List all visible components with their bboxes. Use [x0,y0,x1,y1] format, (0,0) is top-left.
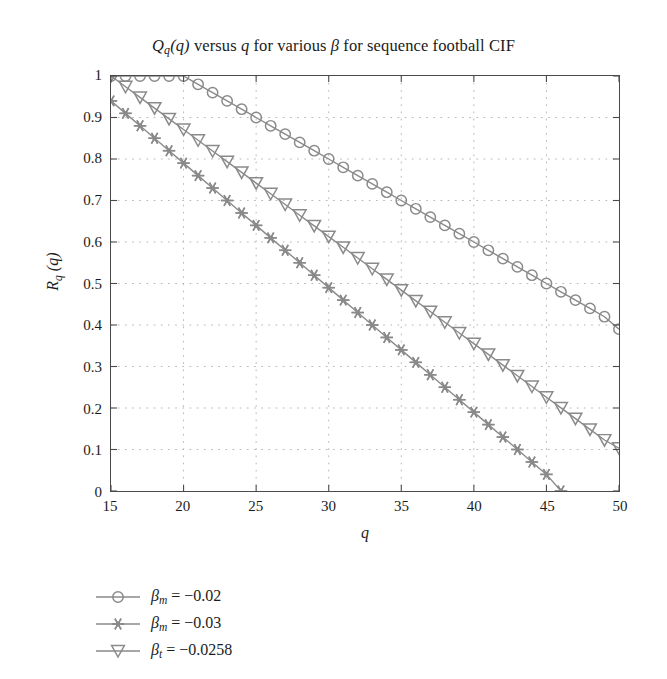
x-tick-label: 25 [226,498,286,515]
legend-marker-triangle-down-icon [95,640,141,662]
legend-item[interactable]: βt = −0.0258 [95,637,355,664]
title-versus: versus [190,36,241,55]
legend-value: −0.02 [184,587,221,604]
y-tick-label: 0.8 [50,150,102,167]
x-tick-label: 20 [153,498,213,515]
axis-tickmarks [111,76,619,491]
title-mid: for various [249,36,331,55]
y-axis-label: Rq (q) [44,212,63,332]
x-tick-label: 35 [371,498,431,515]
legend-label: βm = −0.02 [141,587,221,606]
legend-value: −0.03 [184,614,221,631]
y-tick-label: 0.2 [50,400,102,417]
y-tick-label: 0.7 [50,192,102,209]
legend-marker-circle-icon [95,586,141,608]
title-tail: for sequence football CIF [339,36,515,55]
legend-label: βm = −0.03 [141,614,221,633]
y-tick-label: 1 [50,67,102,84]
legend-value: −0.0258 [179,641,232,658]
y-tick-label: 0.1 [50,442,102,459]
x-tick-label: 50 [590,498,650,515]
x-axis-label-text: q [361,524,369,541]
x-axis-tick-labels: 1520253035404550 [110,498,620,520]
plot-area [110,75,620,492]
legend-beta: β [151,641,159,658]
chart-figure: Qq(q) versus q for various β for sequenc… [0,0,667,679]
legend-equals: = [167,587,184,604]
y-axis-label-arg: (q) [44,253,61,276]
legend-marker-star-icon [95,613,141,635]
y-axis-label-subscript: q [52,275,64,281]
legend-equals: = [162,641,179,658]
title-q-symbol: Q [152,36,164,55]
x-tick-label: 40 [444,498,504,515]
legend-beta: β [151,587,159,604]
legend-equals: = [167,614,184,631]
chart-legend: βm = −0.02βm = −0.03βt = −0.0258 [95,583,355,667]
x-tick-label: 30 [299,498,359,515]
title-beta: β [331,36,339,55]
y-tick-label: 0.9 [50,108,102,125]
legend-label: βt = −0.0258 [141,641,232,660]
chart-title: Qq(q) versus q for various β for sequenc… [0,36,667,58]
legend-item[interactable]: βm = −0.03 [95,610,355,637]
legend-item[interactable]: βm = −0.02 [95,583,355,610]
x-tick-label: 15 [80,498,140,515]
title-q-arg: (q) [170,36,190,55]
x-tick-label: 45 [517,498,577,515]
legend-beta: β [151,614,159,631]
x-axis-label: q [110,524,620,542]
y-axis-label-main: R [44,281,61,291]
y-tick-label: 0.3 [50,358,102,375]
